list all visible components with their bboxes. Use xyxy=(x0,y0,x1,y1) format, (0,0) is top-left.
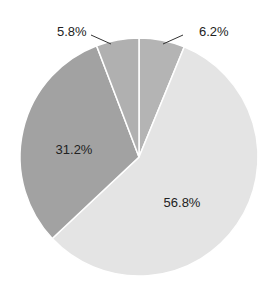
slice-label-56-8: 56.8% xyxy=(164,195,201,210)
leader-line-5-8 xyxy=(91,35,111,44)
pie-chart: 6.2% 56.8% 31.2% 5.8% xyxy=(0,0,271,302)
slice-label-31-2: 31.2% xyxy=(56,142,93,157)
slice-label-5-8: 5.8% xyxy=(57,24,87,39)
slice-label-6-2: 6.2% xyxy=(199,24,229,39)
